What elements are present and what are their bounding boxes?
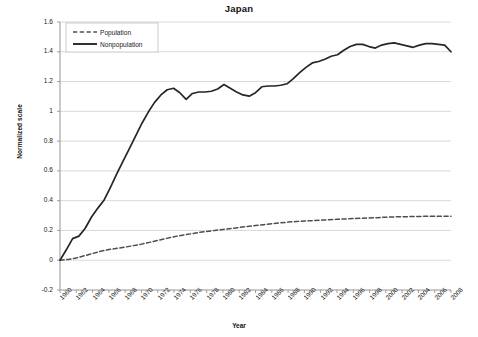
legend-label-nonpopulation: Nonpopulation [100,41,143,49]
y-axis-tick-label: 0.8 [31,137,53,144]
y-axis-tick-label: 0 [31,256,53,263]
data-series-layer [60,43,451,260]
y-axis-tick-label: 0.2 [31,226,53,233]
y-axis-tick-label: 1.6 [31,18,53,25]
series-line-nonpopulation [60,43,451,260]
y-axis-tick-label: 1.2 [31,77,53,84]
y-axis-tick-label: 1 [31,107,53,114]
axis-lines [57,22,451,293]
y-axis-tick-label: 0.6 [31,166,53,173]
legend-label-population: Population [100,29,131,37]
y-axis-tick-label: 0.4 [31,196,53,203]
chart-container: Japan Normalized scale Year PopulationNo… [0,0,478,337]
chart-legend: PopulationNonpopulation [66,23,158,52]
gridlines [60,22,451,290]
plot-area: PopulationNonpopulation [0,0,478,337]
y-axis-tick-label: 1.4 [31,47,53,54]
legend-box [66,23,158,52]
series-line-population [60,216,451,260]
y-axis-tick-label: -0.2 [31,286,53,293]
